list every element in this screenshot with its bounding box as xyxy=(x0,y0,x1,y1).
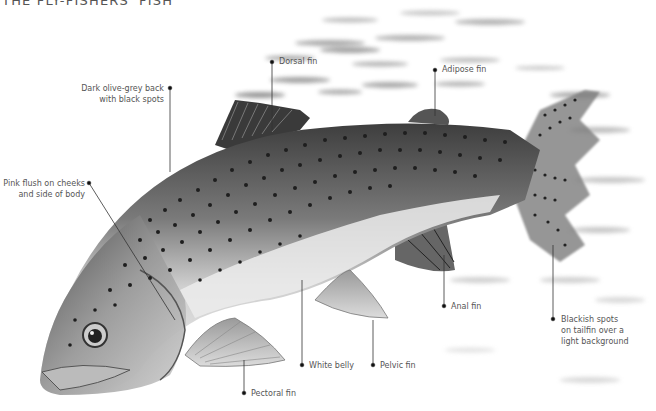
label-tailfin-spots: Blackish spots on tailfin over a light b… xyxy=(561,314,629,347)
label-back: Dark olive-grey back with black spots xyxy=(81,83,164,105)
label-adipose-fin: Adipose fin xyxy=(442,64,486,75)
label-white-belly: White belly xyxy=(309,360,354,371)
label-dorsal-fin: Dorsal fin xyxy=(279,56,317,67)
label-pelvic-fin: Pelvic fin xyxy=(380,360,416,371)
pectoral-fin-shape xyxy=(185,318,285,366)
label-pink-flush: Pink flush on cheeks and side of body xyxy=(3,178,85,200)
label-anal-fin: Anal fin xyxy=(451,301,481,312)
label-pectoral-fin: Pectoral fin xyxy=(251,388,296,399)
adipose-fin-shape xyxy=(408,109,449,125)
eye xyxy=(83,323,107,347)
trout-illustration xyxy=(0,0,656,411)
